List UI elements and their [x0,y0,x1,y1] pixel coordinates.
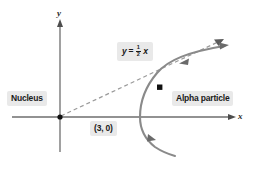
trajectory-upper-arrowhead [219,43,229,50]
x-axis-arrowhead [228,114,236,120]
y-axis-arrowhead [57,19,63,27]
equation-fraction-one-half: 1 2 [136,45,141,58]
figure-canvas [0,0,254,170]
nucleus-label: Nucleus [7,91,47,106]
vertex-coordinate-label: (3, 0) [90,121,117,136]
asymptote-equation-label: y = 1 2 x [117,42,153,61]
equation-rhs-variable: x [143,47,148,56]
nucleus-marker [57,114,62,119]
equation-equals-sign: = [129,47,134,56]
equation-lhs: y [122,47,127,56]
y-axis-label: y [57,8,61,18]
trajectory-direction-arrow-upper [179,59,189,66]
trajectory-direction-arrow-lower [147,134,156,142]
equation-fraction-denominator: 2 [136,51,141,58]
x-axis-label: x [238,111,243,121]
alpha-particle-marker [157,85,162,90]
trajectory-lower-branch [140,117,175,156]
alpha-particle-hyperbola-figure: y x Nucleus Alpha particle (3, 0) y = 1 … [0,0,254,170]
alpha-particle-label: Alpha particle [172,91,233,106]
